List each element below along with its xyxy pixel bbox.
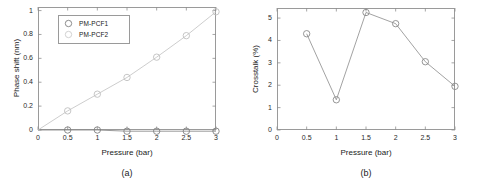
series-line <box>307 12 455 99</box>
x-tick-label: 0 <box>36 134 40 142</box>
y-tick-label: 0.2 <box>0 102 33 110</box>
y-tick-label: 0 <box>0 126 33 134</box>
x-tick-label: 1 <box>334 134 338 142</box>
x-tick-label: 3 <box>214 134 218 142</box>
axis-title-x-b: Pressure (bar) <box>340 148 391 157</box>
axis-title-y-b: Crosstalk (%) <box>251 45 260 93</box>
x-tick-label: 2 <box>155 134 159 142</box>
y-tick-label: 4 <box>240 36 272 44</box>
panel-b: 00.511.522.53012345 Pressure (bar) Cross… <box>240 0 479 189</box>
legend-marker-circle-icon <box>63 30 74 39</box>
x-tick-label: 2.5 <box>181 134 191 142</box>
caption-b: (b) <box>361 168 372 178</box>
legend-item-pm-pcf1: PM-PCF1 <box>63 18 125 29</box>
x-tick-label: 0.5 <box>302 134 312 142</box>
data-point-marker <box>452 83 458 89</box>
y-tick-label: 0.8 <box>0 30 33 38</box>
legend-label-pm-pcf1: PM-PCF1 <box>79 20 108 27</box>
y-tick-label: 5 <box>240 14 272 22</box>
axis-title-x-a: Pressure (bar) <box>101 148 152 157</box>
x-tick-label: 1.5 <box>122 134 132 142</box>
legend-label-pm-pcf2: PM-PCF2 <box>79 31 108 38</box>
legend-item-pm-pcf2: PM-PCF2 <box>63 29 125 40</box>
x-tick-label: 0.5 <box>63 134 73 142</box>
x-tick-label: 2.5 <box>420 134 430 142</box>
caption-a: (a) <box>122 168 133 178</box>
figure-container: 00.511.522.5300.20.40.60.81 Pressure (ba… <box>0 0 479 189</box>
legend-marker-circle-icon <box>63 19 74 28</box>
x-tick-label: 3 <box>453 134 457 142</box>
x-tick-label: 1.5 <box>361 134 371 142</box>
y-tick-label: 0 <box>240 126 272 134</box>
axis-title-y-a: Phase shift (nm) <box>12 39 21 97</box>
legend-a: PM-PCF1 PM-PCF2 <box>58 15 130 44</box>
x-tick-label: 2 <box>394 134 398 142</box>
x-tick-label: 1 <box>95 134 99 142</box>
panel-a: 00.511.522.5300.20.40.60.81 Pressure (ba… <box>0 0 239 189</box>
plot-svg-b <box>240 0 479 189</box>
x-tick-label: 0 <box>275 134 279 142</box>
y-tick-label: 1 <box>240 104 272 112</box>
y-tick-label: 1 <box>0 7 33 15</box>
